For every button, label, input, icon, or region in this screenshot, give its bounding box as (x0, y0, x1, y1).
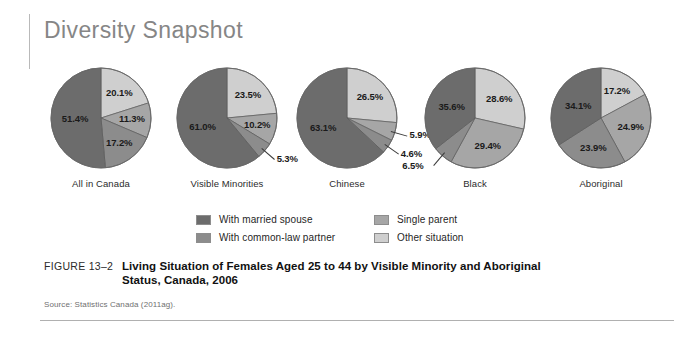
pie-graphic: 20.1%11.3%17.2%51.4% (49, 66, 153, 170)
pie-slice-value: 26.5% (353, 91, 387, 102)
figure-caption: FIGURE 13–2 Living Situation of Females … (44, 259, 544, 287)
legend-label: Other situation (397, 232, 464, 243)
pie-slice-value: 28.6% (482, 93, 516, 104)
figure-page: Diversity Snapshot 20.1%11.3%17.2%51.4%A… (0, 0, 685, 339)
pie-slice-value: 24.9% (614, 121, 648, 132)
legend-swatch-icon (196, 215, 211, 225)
pie-svg (295, 66, 399, 170)
legend-item-other: Other situation (374, 232, 464, 243)
chart-legend: With married spouseWith common-law partn… (196, 214, 526, 250)
pie-slice-value: 63.1% (306, 122, 340, 133)
legend-label: With married spouse (219, 214, 313, 225)
legend-label: With common-law partner (219, 232, 335, 243)
pie-slice-value: 10.2% (240, 119, 274, 130)
pie-chart-label: Aboriginal (538, 178, 664, 189)
pie-slice-value: 29.4% (471, 140, 505, 151)
legend-swatch-icon (196, 233, 211, 243)
legend-label: Single parent (397, 214, 457, 225)
pie-chart-label: Chinese (284, 178, 410, 189)
pie-chart: 20.1%11.3%17.2%51.4%All in Canada (38, 66, 164, 201)
pie-slice-value: 17.2% (600, 85, 634, 96)
pie-slice-value: 23.9% (576, 142, 610, 153)
legend-item-single: Single parent (374, 214, 457, 225)
decorative-bottom-rule (40, 320, 674, 321)
pie-chart-label: All in Canada (38, 178, 164, 189)
pie-chart: 17.2%24.9%23.9%34.1%Aboriginal (538, 66, 664, 201)
pie-slice-value: 35.6% (435, 101, 469, 112)
pie-chart: 26.5%5.9%4.6%63.1%Chinese (284, 66, 410, 201)
pie-graphic: 17.2%24.9%23.9%34.1% (549, 66, 653, 170)
pie-chart: 23.5%10.2%5.3%61.0%Visible Minorities (164, 66, 290, 201)
page-title: Diversity Snapshot (44, 17, 243, 44)
figure-title: Living Situation of Females Aged 25 to 4… (122, 259, 544, 287)
pie-slice-value: 34.1% (561, 100, 595, 111)
decorative-left-rule (29, 14, 30, 69)
figure-number: FIGURE 13–2 (44, 259, 122, 272)
pie-slice-value: 51.4% (58, 113, 92, 124)
pie-graphic: 28.6%29.4%6.5%35.6% (423, 66, 527, 170)
legend-swatch-icon (374, 215, 389, 225)
pie-slice-value: 17.2% (102, 137, 136, 148)
pie-slice-value: 20.1% (102, 87, 136, 98)
pie-graphic: 23.5%10.2%5.3%61.0% (175, 66, 279, 170)
figure-source: Source: Statistics Canada (2011ag). (44, 300, 175, 309)
legend-item-commonlaw: With common-law partner (196, 232, 335, 243)
pie-slice-value: 23.5% (231, 89, 265, 100)
legend-item-married: With married spouse (196, 214, 313, 225)
pie-chart-row: 20.1%11.3%17.2%51.4%All in Canada23.5%10… (38, 66, 668, 201)
pie-slice-value: 11.3% (115, 113, 149, 124)
pie-chart-label: Black (412, 178, 538, 189)
pie-svg (423, 66, 527, 170)
legend-swatch-icon (374, 233, 389, 243)
pie-chart: 28.6%29.4%6.5%35.6%Black (412, 66, 538, 201)
pie-slice-value: 61.0% (186, 121, 220, 132)
pie-graphic: 26.5%5.9%4.6%63.1% (295, 66, 399, 170)
pie-chart-label: Visible Minorities (164, 178, 290, 189)
pie-svg (549, 66, 653, 170)
pie-slice-value: 6.5% (402, 160, 423, 171)
